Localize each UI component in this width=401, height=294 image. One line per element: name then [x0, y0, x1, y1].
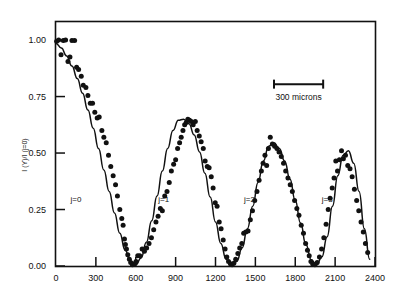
data-point	[254, 189, 259, 194]
data-point	[356, 208, 361, 213]
scale-bar-label: 300 microns	[275, 92, 321, 102]
data-point	[266, 146, 271, 151]
data-point	[324, 222, 329, 227]
data-point	[303, 241, 308, 246]
data-point	[348, 166, 353, 171]
data-point	[134, 259, 139, 264]
data-point	[193, 119, 198, 124]
data-point	[195, 128, 200, 133]
chart-background	[0, 0, 401, 294]
data-point	[319, 247, 324, 252]
lobe-label-2: j=2	[243, 195, 255, 204]
x-tick-label: 900	[168, 273, 183, 283]
data-point	[288, 182, 293, 187]
data-point	[223, 247, 228, 252]
data-point	[199, 139, 204, 144]
lobe-label-1: j=1	[157, 195, 169, 204]
data-point	[365, 250, 370, 255]
data-point	[259, 169, 264, 174]
data-point	[76, 67, 81, 72]
data-point	[144, 245, 149, 250]
data-point	[123, 242, 128, 247]
data-point	[177, 140, 182, 145]
data-point	[330, 186, 335, 191]
x-tick-label: 1800	[285, 273, 305, 283]
data-point	[179, 135, 184, 140]
x-tick-label: 0	[53, 273, 58, 283]
data-point	[67, 55, 72, 60]
data-point	[343, 153, 348, 158]
intensity-vs-position-chart: I (Y)/I (j=0) 0.000.250.500.751.00 03006…	[0, 0, 401, 294]
data-point	[59, 52, 64, 57]
data-point	[85, 93, 90, 98]
data-point	[277, 149, 282, 154]
data-point	[147, 241, 152, 246]
data-point	[156, 214, 161, 219]
data-point	[122, 236, 127, 241]
data-point	[235, 251, 240, 256]
data-point	[359, 219, 364, 224]
data-point	[294, 206, 299, 211]
x-tick-label: 300	[88, 273, 103, 283]
data-point	[363, 241, 368, 246]
data-point	[321, 235, 326, 240]
data-point	[221, 238, 226, 243]
data-point	[317, 254, 322, 259]
data-point	[335, 169, 340, 174]
data-point	[279, 154, 284, 159]
data-point	[307, 253, 312, 258]
data-point	[211, 186, 216, 191]
y-tick-label: 0.75	[28, 92, 46, 102]
x-tick-label: 2400	[365, 273, 385, 283]
data-point	[296, 213, 301, 218]
data-point	[203, 158, 208, 163]
data-point	[292, 198, 297, 203]
data-point	[326, 207, 331, 212]
data-point	[201, 146, 206, 151]
data-point	[104, 140, 109, 145]
data-point	[108, 164, 113, 169]
data-point	[111, 173, 116, 178]
data-point	[151, 227, 156, 232]
x-tick-label: 1500	[245, 273, 265, 283]
lobe-label-0: j=0	[69, 195, 81, 204]
lobe-label-3: j=3	[321, 195, 333, 204]
data-point	[290, 189, 295, 194]
data-point	[121, 223, 126, 228]
data-point	[79, 74, 84, 79]
data-point	[99, 128, 104, 133]
data-point	[246, 228, 251, 233]
data-point	[115, 193, 120, 198]
data-point	[173, 157, 178, 162]
data-point	[268, 135, 273, 140]
data-point	[175, 146, 180, 151]
data-point	[315, 260, 320, 265]
data-point	[305, 248, 310, 253]
data-point	[264, 163, 269, 168]
data-point	[354, 198, 359, 203]
data-point	[180, 128, 185, 133]
data-point	[283, 169, 288, 174]
data-point	[167, 180, 172, 185]
data-point	[124, 247, 129, 252]
data-point	[248, 217, 253, 222]
x-tick-label: 1200	[205, 273, 225, 283]
data-point	[101, 135, 106, 140]
x-axis-tick-labels: 030060090012001500180021002400	[53, 273, 385, 283]
data-point	[239, 241, 244, 246]
y-tick-label: 1.00	[28, 35, 46, 45]
data-point	[169, 169, 174, 174]
data-point	[160, 208, 165, 213]
data-point	[197, 134, 202, 139]
data-point	[262, 153, 267, 158]
x-tick-label: 600	[128, 273, 143, 283]
data-point	[106, 153, 111, 158]
data-point	[361, 230, 366, 235]
data-point	[339, 148, 344, 153]
data-point	[149, 235, 154, 240]
y-tick-label: 0.00	[28, 261, 46, 271]
data-point	[301, 231, 306, 236]
data-point	[350, 174, 355, 179]
data-point	[233, 257, 238, 262]
data-point	[332, 175, 337, 180]
